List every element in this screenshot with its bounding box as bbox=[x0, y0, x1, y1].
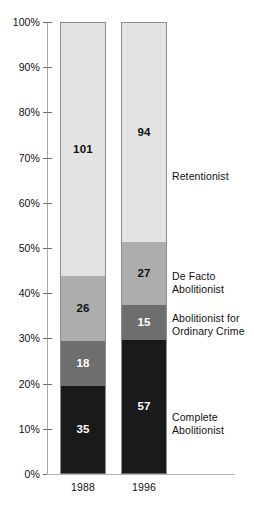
bar-segment-value: 27 bbox=[137, 268, 150, 279]
y-axis-tick-label: 40% bbox=[0, 288, 40, 298]
bar-segment-value: 26 bbox=[76, 303, 89, 314]
stacked-bar-chart: 100%90%80%70%60%50%40%30%20%10%0% 101261… bbox=[0, 0, 254, 515]
y-axis-tick bbox=[43, 248, 52, 249]
bar-segment-value: 101 bbox=[73, 144, 93, 155]
y-axis-tick bbox=[43, 67, 52, 68]
bar-segment-value: 94 bbox=[137, 127, 150, 138]
legend-item-complete: CompleteAbolitionist bbox=[172, 411, 254, 436]
y-axis-tick-label: 60% bbox=[0, 198, 40, 208]
y-axis-tick bbox=[43, 203, 52, 204]
bar-segment[interactable]: 94 bbox=[121, 22, 167, 242]
bar-1996[interactable]: 94271557 bbox=[121, 22, 167, 474]
legend-item-retentionist: Retentionist bbox=[172, 170, 254, 183]
y-axis-tick-label: 90% bbox=[0, 62, 40, 72]
bar-segment[interactable]: 18 bbox=[60, 341, 106, 386]
y-axis-tick bbox=[43, 384, 52, 385]
bar-segment[interactable]: 101 bbox=[60, 22, 106, 276]
bar-segment[interactable]: 15 bbox=[121, 305, 167, 340]
bar-segment-value: 18 bbox=[76, 358, 89, 369]
y-axis-tick-label: 0% bbox=[0, 469, 40, 479]
y-axis-tick-label: 30% bbox=[0, 333, 40, 343]
x-axis-label-1996: 1996 bbox=[114, 482, 174, 493]
legend-item-ordinary-crime: Abolitionist forOrdinary Crime bbox=[172, 312, 254, 337]
x-axis-baseline bbox=[47, 474, 235, 475]
bar-segment-value: 15 bbox=[137, 317, 150, 328]
legend-item-de-facto: De FactoAbolitionist bbox=[172, 270, 254, 295]
bar-segment[interactable]: 27 bbox=[121, 242, 167, 305]
y-axis-tick bbox=[43, 293, 52, 294]
y-axis-tick-label: 20% bbox=[0, 379, 40, 389]
y-axis-tick bbox=[43, 338, 52, 339]
y-axis-tick bbox=[43, 112, 52, 113]
legend-item-label: Abolitionist for bbox=[172, 312, 254, 325]
bar-segment[interactable]: 26 bbox=[60, 276, 106, 341]
y-axis-tick bbox=[43, 158, 52, 159]
x-axis-label-1988: 1988 bbox=[53, 482, 113, 493]
y-axis-tick bbox=[43, 429, 52, 430]
bar-segment[interactable]: 35 bbox=[60, 386, 106, 474]
legend-item-label: Abolitionist bbox=[172, 283, 254, 296]
y-axis-tick bbox=[43, 22, 52, 23]
bar-1988[interactable]: 101261835 bbox=[60, 22, 106, 474]
legend-item-label: Complete bbox=[172, 411, 254, 424]
legend-item-label: Ordinary Crime bbox=[172, 325, 254, 338]
y-axis-tick-label: 50% bbox=[0, 243, 40, 253]
y-axis-tick-label: 70% bbox=[0, 153, 40, 163]
y-axis-tick-label: 80% bbox=[0, 107, 40, 117]
legend-item-label: Retentionist bbox=[172, 170, 254, 183]
y-axis-tick-label: 10% bbox=[0, 424, 40, 434]
y-axis-tick-label: 100% bbox=[0, 17, 40, 27]
bar-segment[interactable]: 57 bbox=[121, 340, 167, 474]
legend-item-label: De Facto bbox=[172, 270, 254, 283]
bar-segment-value: 35 bbox=[76, 424, 89, 435]
bar-segment-value: 57 bbox=[137, 401, 150, 412]
legend-item-label: Abolitionist bbox=[172, 424, 254, 437]
